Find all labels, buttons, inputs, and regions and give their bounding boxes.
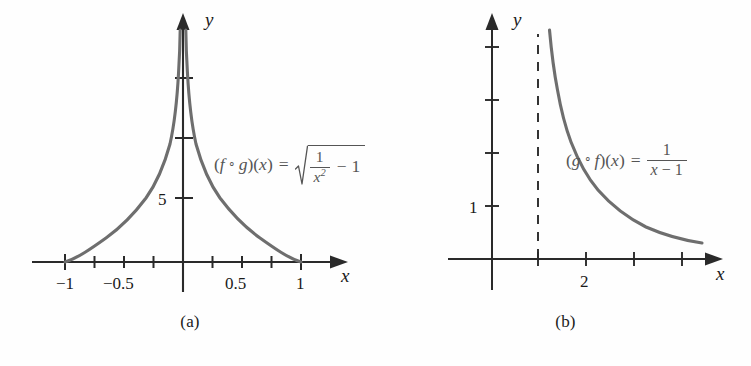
- panel-a-caption: (a): [0, 312, 380, 332]
- composition-ring-icon: ∘: [225, 158, 239, 170]
- formula-a-close-paren: ): [267, 156, 273, 174]
- radicand-denominator: x2: [310, 167, 330, 185]
- formula-b-fraction: 1 x−1: [647, 142, 687, 179]
- composition-ring-icon: ∘: [581, 153, 595, 165]
- radicand: 1 x2 − 1: [308, 145, 366, 185]
- figure-container: y x −1 −0.5 0.5 1 5 ( f ∘ g )( x ) =: [0, 0, 751, 366]
- panel-b-ytick-label-1: 1: [469, 198, 478, 217]
- formula-b-numerator: 1: [659, 142, 675, 160]
- formula-b-denominator: x−1: [647, 160, 687, 179]
- formula-b-arg: x: [611, 152, 619, 170]
- panel-a-xtick-label-neg1: −1: [56, 274, 74, 293]
- formula-a-arg: x: [259, 156, 267, 174]
- panel-a-xtick-label-05: 0.5: [225, 274, 246, 293]
- formula-b-mid-paren: )(: [599, 152, 611, 170]
- panel-b-x-axis-label: x: [715, 263, 725, 284]
- formula-b-close-paren: ): [619, 152, 625, 170]
- formula-b-equals: =: [631, 152, 641, 170]
- panel-b: y x 2 1 ( g ∘ f )( x ) = 1 x−1 (b): [380, 0, 751, 366]
- panel-a-curve-left: [65, 30, 180, 262]
- radicand-numerator: 1: [312, 149, 328, 166]
- radicand-fraction: 1 x2: [310, 149, 330, 185]
- formula-b-denominator-const: 1: [675, 161, 683, 178]
- panel-a-xtick-label-1: 1: [296, 274, 305, 293]
- panel-a-x-axis-label: x: [340, 265, 350, 286]
- formula-a-g: g: [239, 156, 248, 174]
- radicand-minus: −: [337, 158, 347, 176]
- square-root-icon: 1 x2 − 1: [295, 145, 366, 185]
- formula-a-mid-paren: )(: [247, 156, 259, 174]
- panel-b-caption: (b): [380, 312, 751, 332]
- formula-b-denominator-var: x: [651, 161, 658, 178]
- panel-a-xtick-label-neg05: −0.5: [103, 274, 134, 293]
- panel-b-y-axis-label: y: [511, 9, 522, 30]
- panel-a: y x −1 −0.5 0.5 1 5 ( f ∘ g )( x ) =: [0, 0, 380, 366]
- formula-a-equals: =: [279, 156, 289, 174]
- panel-b-formula: ( g ∘ f )( x ) = 1 x−1: [566, 142, 687, 179]
- panel-a-ytick-label-5: 5: [158, 190, 167, 209]
- panel-b-xtick-label-2: 2: [580, 272, 589, 291]
- panel-b-curve: [550, 30, 703, 243]
- formula-b-denominator-minus: −: [662, 161, 671, 178]
- panel-a-formula: ( f ∘ g )( x ) = 1 x2: [214, 145, 365, 185]
- radical-sign: [295, 145, 308, 185]
- panel-a-y-axis-label: y: [203, 9, 214, 30]
- formula-b-g: g: [572, 152, 581, 170]
- panel-b-y-axis: [486, 13, 499, 290]
- radicand-constant: 1: [352, 158, 361, 176]
- radicand-denominator-exponent: 2: [320, 166, 325, 177]
